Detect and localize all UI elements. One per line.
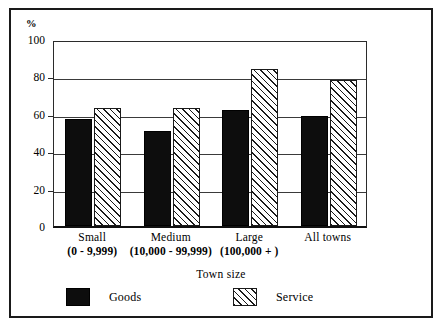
bar-goods-medium (144, 131, 171, 226)
y-tick-label-100: 100 (1, 35, 45, 46)
bar-chart-figure: % 020406080100 Small(0 - 9,999)Medium(10… (0, 0, 442, 328)
plot-area (53, 41, 367, 228)
bar-service-medium (173, 108, 200, 226)
bar-goods-small (65, 119, 92, 226)
y-tick-label-80: 80 (1, 72, 45, 83)
x-axis-title: Town size (0, 268, 442, 280)
x-label-range: (100,000 + ) (189, 245, 309, 259)
bars-layer (54, 42, 366, 226)
y-tick-label-20: 20 (1, 185, 45, 196)
x-axis-category-labels: Small(0 - 9,999)Medium(10,000 - 99,999)L… (53, 231, 367, 267)
x-label-primary: All towns (268, 231, 388, 245)
legend: Goods Service (60, 288, 390, 314)
solid-black-swatch-icon (66, 288, 90, 306)
legend-item-goods: Goods (66, 288, 141, 306)
legend-label-goods: Goods (109, 290, 141, 305)
bar-service-small (94, 108, 121, 226)
bar-service-large (251, 69, 278, 226)
bar-goods-all-towns (301, 116, 328, 226)
diagonal-hatch-swatch-icon (233, 288, 257, 306)
y-tick-label-60: 60 (1, 110, 45, 121)
x-label-all-towns: All towns (268, 231, 388, 245)
legend-item-service: Service (233, 288, 313, 306)
legend-label-service: Service (276, 290, 313, 305)
y-tick-label-40: 40 (1, 147, 45, 158)
bar-goods-large (222, 110, 249, 226)
bar-service-all-towns (330, 80, 357, 226)
